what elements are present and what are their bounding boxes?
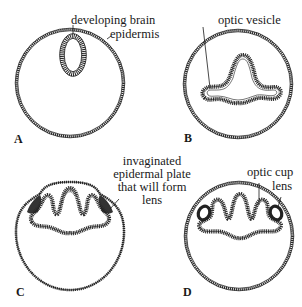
label-lens: lens [272,180,292,193]
label-invaginated-epidermal-plate: invaginated epidermal plate that will fo… [97,155,207,207]
panel-letter-c: C [16,285,25,300]
label-developing-brain: developing brain [71,14,155,27]
panel-a-drawing [15,25,125,138]
leader-optic-vesicle [203,27,210,88]
panel-b-drawing [183,27,293,139]
label-optic-vesicle: optic vesicle [218,14,281,27]
lens-right [268,204,284,221]
developing-brain-tube [62,36,84,74]
label-optic-cup: optic cup [247,166,293,179]
epidermis-ring-a [17,30,124,137]
panel-letter-a: A [14,132,23,147]
label-epidermis: epidermis [110,28,159,41]
epidermis-ring-b [185,31,292,138]
label-line: lens [97,194,207,207]
panel-letter-d: D [183,285,192,300]
panel-letter-b: B [184,131,192,146]
